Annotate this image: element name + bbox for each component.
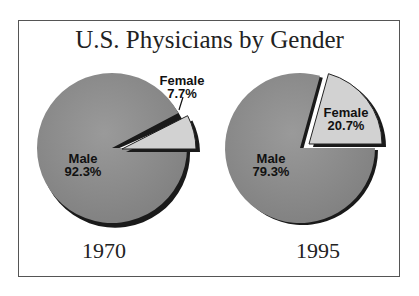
year-label-1970: 1970 bbox=[82, 238, 126, 264]
pie-charts: Female 7.7% Male 92.3% Female 20.7% Male… bbox=[0, 0, 419, 296]
pie-1995: Female 20.7% Male 79.3% bbox=[225, 73, 386, 225]
male-value-1970: 92.3% bbox=[65, 164, 102, 179]
male-value-1995: 79.3% bbox=[253, 164, 290, 179]
year-label-1995: 1995 bbox=[296, 238, 340, 264]
female-value-1970: 7.7% bbox=[167, 86, 197, 101]
pie-1970: Female 7.7% Male 92.3% bbox=[37, 73, 204, 228]
female-value-1995: 20.7% bbox=[328, 118, 365, 133]
